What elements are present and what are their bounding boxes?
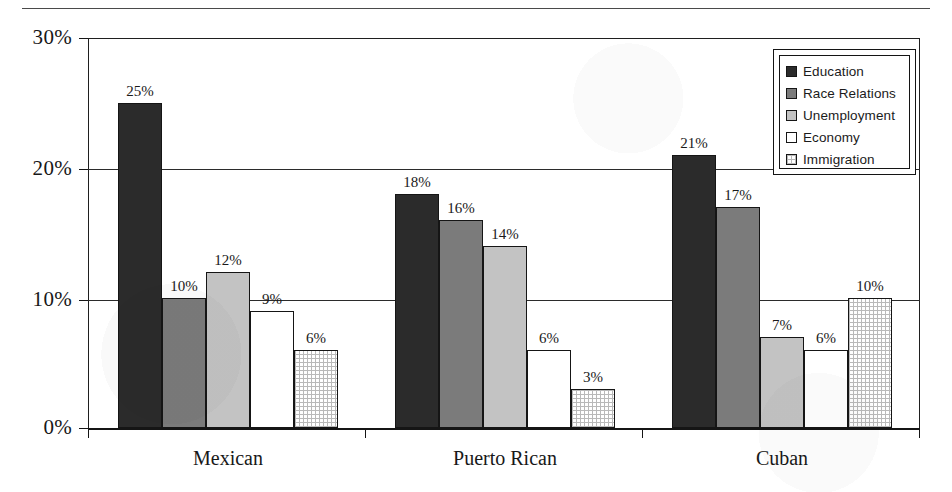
legend-item-immigration[interactable]: Immigration [786,149,905,170]
value-label-mexican-immigration: 6% [290,331,342,346]
value-label-cuban-race-relations: 17% [712,188,764,203]
value-label-mexican-economy: 9% [246,292,298,307]
grouped-bar-chart: 30% 20% 10% 0% 25% 10% 12% 9% 6% 18% 16%… [0,0,952,492]
value-label-puerto-rican-immigration: 3% [567,370,619,385]
x-axis-category-puerto-rican: Puerto Rican [415,447,595,470]
legend-item-race-relations[interactable]: Race Relations [786,83,905,104]
legend-swatch-unemployment-icon [786,110,797,121]
x-tick-mark-0 [88,428,89,438]
value-label-puerto-rican-unemployment: 14% [479,227,531,242]
bar-mexican-unemployment[interactable] [206,272,250,428]
legend-swatch-economy-icon [786,132,797,143]
bar-puerto-rican-economy[interactable] [527,350,571,428]
bar-puerto-rican-race-relations[interactable] [439,220,483,428]
x-axis-line [88,428,920,430]
value-label-cuban-immigration: 10% [844,279,896,294]
legend-label-economy: Economy [803,131,860,145]
x-axis-category-cuban: Cuban [692,447,872,470]
x-axis-category-mexican: Mexican [138,447,318,470]
legend-label-immigration: Immigration [803,153,875,167]
x-tick-mark-3 [919,428,920,438]
bar-mexican-economy[interactable] [250,311,294,428]
bar-puerto-rican-immigration[interactable] [571,389,615,428]
legend-item-economy[interactable]: Economy [786,127,905,148]
value-label-cuban-economy: 6% [800,331,852,346]
bar-cuban-race-relations[interactable] [716,207,760,428]
legend-swatch-race-relations-icon [786,88,797,99]
legend-label-race-relations: Race Relations [803,87,896,101]
value-label-puerto-rican-economy: 6% [523,331,575,346]
x-tick-mark-1 [365,428,366,438]
bar-mexican-education[interactable] [118,103,162,428]
x-tick-mark-2 [642,428,643,438]
bar-cuban-immigration[interactable] [848,298,892,428]
legend-swatch-immigration-icon [786,154,797,165]
y-tick-mark-0 [79,428,88,429]
bar-cuban-economy[interactable] [804,350,848,428]
value-label-puerto-rican-education: 18% [391,175,443,190]
bar-mexican-immigration[interactable] [294,350,338,428]
value-label-mexican-unemployment: 12% [202,253,254,268]
legend-label-education: Education [803,65,864,79]
legend-item-unemployment[interactable]: Unemployment [786,105,905,126]
value-label-puerto-rican-race-relations: 16% [435,201,487,216]
bar-puerto-rican-education[interactable] [395,194,439,428]
legend: Education Race Relations Unemployment Ec… [779,55,910,169]
bar-cuban-unemployment[interactable] [760,337,804,428]
legend-label-unemployment: Unemployment [803,109,895,123]
bar-puerto-rican-unemployment[interactable] [483,246,527,428]
value-label-cuban-education: 21% [668,136,720,151]
legend-item-education[interactable]: Education [786,61,905,82]
bar-mexican-race-relations[interactable] [162,298,206,428]
legend-swatch-education-icon [786,66,797,77]
value-label-mexican-race-relations: 10% [158,279,210,294]
bar-cuban-education[interactable] [672,155,716,428]
value-label-mexican-education: 25% [114,84,166,99]
